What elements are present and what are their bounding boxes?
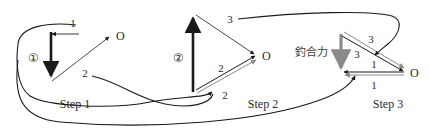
step3-label-1-lower: 1: [371, 79, 377, 91]
step3-caption: Step 3: [373, 97, 403, 111]
step3-label-3-upper: 3: [368, 33, 374, 45]
step2-origin-label: O: [262, 49, 271, 63]
step2-caption: Step 2: [248, 97, 278, 111]
step2-group: 2 2 3 O ② Step 2: [173, 13, 279, 111]
step2-vector-3: [196, 15, 254, 54]
connector-step1-to-step2-a: [17, 24, 212, 106]
step3-label-3-lower: 3: [354, 48, 360, 60]
step1-group: 1 2 O ① Step 1: [28, 17, 126, 111]
step2-badge: ②: [173, 51, 184, 65]
step1-vector-2: [52, 37, 109, 81]
step2-label-2-lower: 2: [222, 89, 228, 101]
connector-bottom-to-step3: [17, 60, 355, 125]
step1-label-1: 1: [70, 17, 76, 29]
diagram-canvas: 1 2 O ① Step 1 2 2 3 O ② Step 2: [0, 0, 429, 133]
step1-origin-label: O: [116, 29, 125, 43]
force-polygon-diagram: 1 2 O ① Step 1 2 2 3 O ② Step 2: [0, 0, 429, 133]
step3-annotation: 釣合力: [295, 45, 328, 59]
step2-label-2-upper: 2: [218, 62, 224, 74]
step1-label-2: 2: [82, 67, 88, 79]
step2-vector-2-upper: [196, 56, 255, 90]
step3-origin-label: O: [410, 66, 419, 80]
step3-group: 3 3 1 1 O 釣合力 Step 3: [295, 32, 419, 111]
step2-label-3: 3: [227, 13, 233, 25]
step1-badge: ①: [28, 51, 39, 65]
step3-label-1-upper: 1: [371, 58, 377, 70]
